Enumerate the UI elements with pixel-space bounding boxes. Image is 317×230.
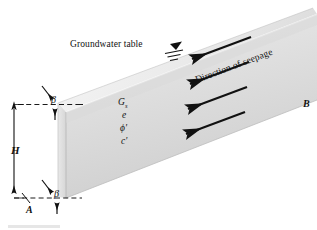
figure-canvas (0, 0, 317, 230)
point-a-label: A (26, 205, 33, 215)
soil-property-void-ratio-text: e (122, 110, 126, 120)
water-table-line-2 (168, 55, 181, 58)
caption-remnant (8, 225, 60, 228)
groundwater-pointer-triangle (170, 42, 182, 51)
soil-property-cohesion-text: c' (121, 136, 127, 146)
soil-property-specific-gravity-subscript: s (125, 102, 128, 109)
soil-property-specific-gravity-text: G (118, 97, 125, 107)
height-label: H (11, 145, 20, 156)
infinite-slope-seepage-figure: Groundwater table Direction of seepage H… (0, 0, 317, 230)
slope-solid (58, 8, 317, 198)
beta-bottom-upper-arrow (42, 180, 52, 193)
groundwater-table-label: Groundwater table (70, 40, 143, 50)
soil-property-friction-angle-text: ϕ' (120, 123, 127, 133)
point-b-label: B (303, 99, 310, 109)
beta-top-label: β (51, 95, 56, 105)
water-table-line-1 (165, 50, 183, 54)
soil-properties-group: Gs e ϕ' c' (118, 98, 127, 150)
soil-property-cohesion: c' (121, 137, 130, 150)
beta-bottom-label: β (54, 189, 59, 199)
slope-left-end-face (58, 103, 66, 198)
